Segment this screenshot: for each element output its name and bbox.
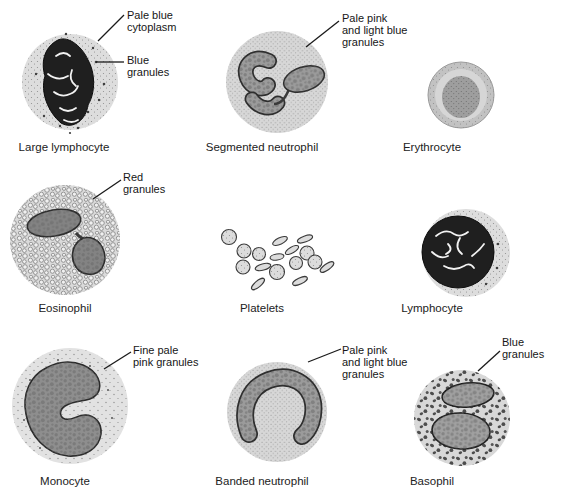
annotation-line: Pale blue — [127, 9, 177, 21]
basophil-cell — [414, 370, 510, 466]
pointer-line-blue-granules-basophil — [478, 351, 500, 371]
annotation-line: and light blue — [342, 24, 407, 36]
annotation-line: and light blue — [342, 356, 407, 368]
large-lymphocyte-cell — [22, 33, 118, 134]
annotation-banded-granules: Pale pink and light blue granules — [342, 344, 407, 380]
erythrocyte-cell — [428, 62, 494, 128]
annotation-line: granules — [502, 348, 544, 360]
lymphocyte-cell — [422, 209, 510, 297]
pointer-line-segmented-granules — [306, 21, 339, 47]
annotation-line: granules — [123, 183, 165, 195]
basophil-label: Basophil — [332, 475, 532, 488]
annotation-red-granules: Red granules — [123, 171, 165, 195]
pointer-line-red-granules — [93, 180, 121, 199]
annotation-line: granules — [342, 36, 407, 48]
eosinophil-cell — [10, 185, 120, 295]
annotation-pale-blue-cytoplasm: Pale blue cytoplasm — [127, 9, 177, 33]
monocyte-label: Monocyte — [0, 475, 165, 488]
pointer-line-pale-blue-cytoplasm — [98, 15, 124, 41]
annotation-line: Fine pale — [133, 344, 198, 356]
segmented-neutrophil-cell — [226, 31, 328, 133]
annotation-line: cytoplasm — [127, 21, 177, 33]
annotation-segmented-granules: Pale pink and light blue granules — [342, 12, 407, 48]
pointer-line-banded-granules — [308, 349, 341, 362]
blood-cells-illustration — [0, 0, 561, 500]
banded-neutrophil-cell — [227, 362, 327, 462]
annotation-line: Red — [123, 171, 165, 183]
annotation-blue-granules-lymphocyte: Blue granules — [127, 54, 169, 78]
annotation-line: Blue — [127, 54, 169, 66]
erythrocyte-label: Erythrocyte — [332, 141, 532, 154]
annotation-fine-pale-pink-granules: Fine pale pink granules — [133, 344, 198, 368]
eosinophil-label: Eosinophil — [0, 302, 165, 315]
blood-cells-figure: Large lymphocyte Segmented neutrophil Er… — [0, 0, 561, 500]
annotation-line: Pale pink — [342, 12, 407, 24]
platelets-cluster — [222, 230, 336, 292]
large-lymphocyte-label: Large lymphocyte — [0, 141, 164, 154]
annotation-line: Pale pink — [342, 344, 407, 356]
lymphocyte-label: Lymphocyte — [332, 302, 532, 315]
annotation-line: granules — [342, 368, 407, 380]
red-granules — [10, 185, 120, 295]
annotation-line: granules — [127, 66, 169, 78]
annotation-blue-granules-basophil: Blue granules — [502, 336, 544, 360]
annotation-line: Blue — [502, 336, 544, 348]
annotation-line: pink granules — [133, 356, 198, 368]
pointer-line-fine-pale-pink — [104, 352, 131, 369]
